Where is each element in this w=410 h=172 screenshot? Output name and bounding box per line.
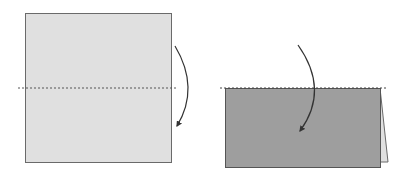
folded-paper — [226, 89, 381, 168]
step-1 — [18, 14, 188, 163]
back-flap — [380, 88, 388, 162]
step-2 — [220, 45, 388, 168]
origami-diagram — [0, 0, 410, 172]
fold-arrow-icon — [175, 46, 188, 126]
